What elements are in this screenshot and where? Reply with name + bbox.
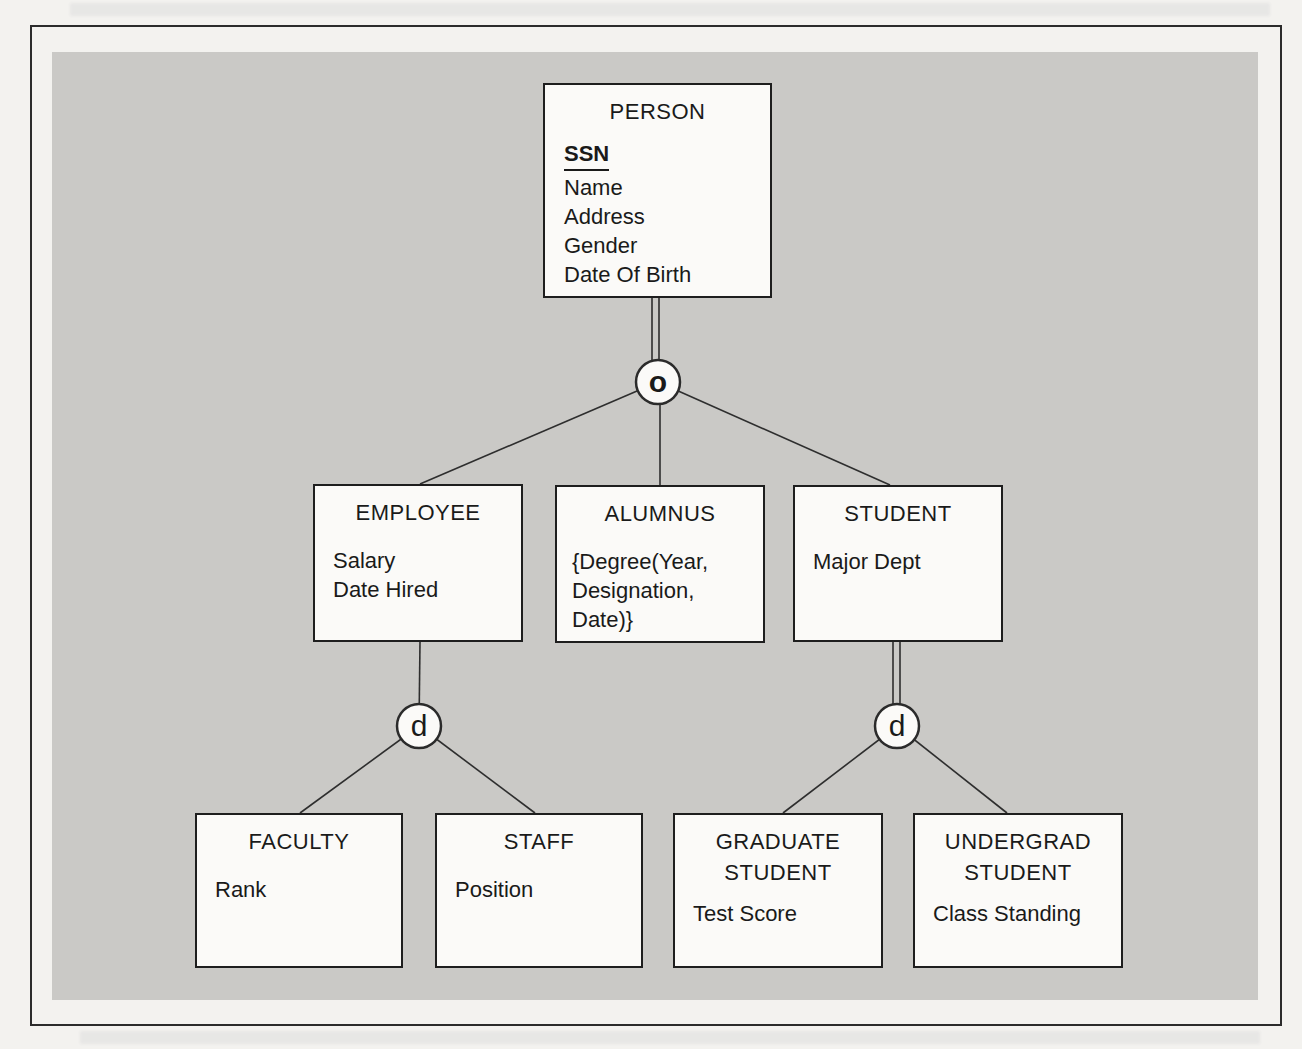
entity-faculty-title: FACULTY (197, 815, 401, 856)
overlap-to-employee-line (420, 382, 658, 484)
overlap-circle-label: o (649, 365, 667, 398)
entity-alumnus-title: ALUMNUS (557, 487, 763, 528)
entity-undergrad-student-title-line1: UNDERGRAD (915, 826, 1121, 857)
scanned-textbook-figure: o d d PERSON SSN Name Address Gender Dat… (0, 0, 1302, 1049)
entity-alumnus-attribute: Date)} (572, 605, 763, 634)
entity-undergrad-student-title-line2: STUDENT (915, 857, 1121, 888)
entity-employee-attribute: Salary (333, 546, 521, 575)
entity-graduate-student-attribute: Test Score (693, 899, 881, 928)
entity-alumnus-attribute: {Degree(Year, (572, 547, 763, 576)
entity-graduate-student-title-line2: STUDENT (675, 857, 881, 888)
entity-person-attribute: Name (564, 173, 770, 202)
entity-person: PERSON SSN Name Address Gender Date Of B… (543, 83, 772, 298)
entity-employee-attribute: Date Hired (333, 575, 521, 604)
entity-staff-title: STAFF (437, 815, 641, 856)
entity-student: STUDENT Major Dept (793, 485, 1003, 642)
disjoint-circle-label-employee: d (411, 709, 428, 742)
entity-person-title: PERSON (545, 85, 770, 126)
entity-student-title: STUDENT (795, 487, 1001, 528)
overlap-to-student-line (658, 382, 890, 485)
entity-person-attribute: Address (564, 202, 770, 231)
disjoint-circle-label-student: d (889, 709, 906, 742)
entity-employee-title: EMPLOYEE (315, 486, 521, 527)
entity-undergrad-student: UNDERGRAD STUDENT Class Standing (913, 813, 1123, 968)
entity-undergrad-student-attribute: Class Standing (933, 899, 1121, 928)
entity-person-key-attribute: SSN (564, 139, 770, 173)
entity-person-attribute: Gender (564, 231, 770, 260)
entity-student-attribute: Major Dept (813, 547, 1001, 576)
entity-staff-attribute: Position (455, 875, 641, 904)
entity-graduate-student: GRADUATE STUDENT Test Score (673, 813, 883, 968)
entity-alumnus: ALUMNUS {Degree(Year, Designation, Date)… (555, 485, 765, 643)
entity-graduate-student-title-line1: GRADUATE (675, 826, 881, 857)
entity-employee: EMPLOYEE Salary Date Hired (313, 484, 523, 642)
entity-staff: STAFF Position (435, 813, 643, 968)
entity-person-attribute: Date Of Birth (564, 260, 770, 289)
entity-faculty: FACULTY Rank (195, 813, 403, 968)
entity-alumnus-attribute: Designation, (572, 576, 763, 605)
entity-faculty-attribute: Rank (215, 875, 401, 904)
